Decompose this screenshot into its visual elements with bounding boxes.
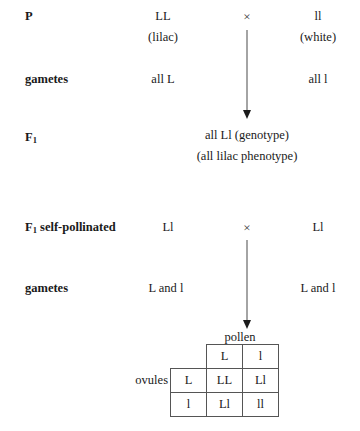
genetics-cross-diagram: P LL (lilac) × ll (white) gametes all L … xyxy=(0,0,360,431)
gametes-f1-left: L and l xyxy=(149,282,184,295)
parental-left-phenotype: (lilac) xyxy=(148,31,178,44)
row-label-f1-text: F xyxy=(25,130,33,144)
row-label-parental: P xyxy=(25,10,33,23)
arrow-head-p-to-f1 xyxy=(243,110,251,119)
cross-symbol-parental: × xyxy=(243,10,250,23)
punnett-pollen-axis-label: pollen xyxy=(224,331,255,344)
f1-genotype-text: all Ll (genotype) xyxy=(205,129,289,142)
punnett-cell-LL: LL xyxy=(207,369,243,393)
row-label-f1-self-text: F xyxy=(25,220,33,234)
punnett-column-header-L: L xyxy=(207,345,243,369)
punnett-cell-Ll-bottom: Ll xyxy=(207,393,243,417)
punnett-cell-ll: ll xyxy=(243,393,279,417)
row-label-gametes-p-text: gametes xyxy=(25,72,68,86)
gametes-f1-right: L and l xyxy=(301,282,336,295)
row-label-f1-self-suffix: self-pollinated xyxy=(37,220,116,234)
f1-self-left-genotype: Ll xyxy=(162,221,173,234)
gametes-p-right: all l xyxy=(308,73,327,86)
punnett-square-table: L l L LL Ll l Ll ll xyxy=(170,344,279,417)
punnett-corner-blank xyxy=(171,345,207,369)
row-label-gametes-f1-text: gametes xyxy=(25,281,68,295)
punnett-row-header-l: l xyxy=(171,393,207,417)
row-label-f1-self-pollinated: F1 self-pollinated xyxy=(25,221,116,234)
row-label-parental-text: P xyxy=(25,9,33,23)
punnett-ovules-axis-label: ovules xyxy=(135,374,168,387)
punnett-row-L: L LL Ll xyxy=(171,369,279,393)
row-label-gametes-f1: gametes xyxy=(25,282,68,295)
parental-right-genotype: ll xyxy=(315,10,322,23)
arrow-head-f1-to-punnett xyxy=(243,320,251,329)
arrow-shaft-p-to-f1 xyxy=(247,30,248,112)
f1-self-right-genotype: Ll xyxy=(312,221,323,234)
row-label-f1-subscript: 1 xyxy=(33,135,37,145)
punnett-column-header-l: l xyxy=(243,345,279,369)
row-label-f1: F1 xyxy=(25,131,37,144)
punnett-row-l: l Ll ll xyxy=(171,393,279,417)
punnett-row-header-L: L xyxy=(171,369,207,393)
parental-left-genotype: LL xyxy=(155,10,170,23)
punnett-header-row: L l xyxy=(171,345,279,369)
row-label-gametes-p: gametes xyxy=(25,73,68,86)
arrow-shaft-f1-to-punnett xyxy=(247,240,248,322)
f1-phenotype-text: (all lilac phenotype) xyxy=(197,150,298,163)
cross-symbol-f1-self: × xyxy=(243,221,250,234)
parental-right-phenotype: (white) xyxy=(300,31,336,44)
row-label-f1-self-subscript: 1 xyxy=(33,225,37,235)
gametes-p-left: all L xyxy=(151,73,174,86)
punnett-cell-Ll-top: Ll xyxy=(243,369,279,393)
